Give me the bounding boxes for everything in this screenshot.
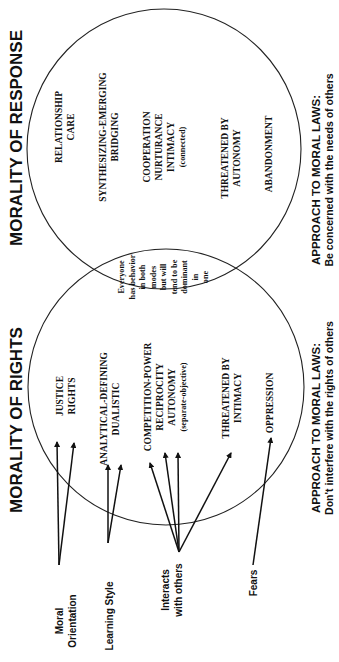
text-line: Moral <box>54 607 65 634</box>
response-approach-text: Be concerned with the needs of others <box>323 73 335 266</box>
response-group-cooperation: COOPERATION NURTURANCE INTIMACY (connect… <box>142 111 187 182</box>
text-line: in both <box>138 264 147 289</box>
text-line: dominant <box>180 260 189 294</box>
text-line: INTIMACY <box>233 373 243 423</box>
text-line: Learning Style <box>104 581 115 650</box>
rights-approach-heading: APPROACH TO MORAL LAWS: <box>310 343 322 513</box>
text-line: RELATIONSHIP <box>54 91 64 163</box>
text-line: with others <box>173 563 184 618</box>
rights-group-analytical: ANALYTICAL-DEFINING DUALISTIC <box>99 352 121 466</box>
label-moral-orientation: Moral Orientation <box>54 594 78 647</box>
text-line: NURTURANCE <box>154 113 164 180</box>
text-line: but will <box>159 263 168 290</box>
label-learning-style: Learning Style <box>104 581 115 650</box>
text-line: CARE <box>66 114 76 141</box>
arrow-fears-oppression <box>253 438 271 565</box>
arrow-moral-justice <box>57 442 59 565</box>
arrow-interacts-competition <box>150 463 179 552</box>
response-group-relationship: RELATIONSHIP CARE <box>54 91 76 163</box>
rights-group-justice: JUSTICE RIGHTS <box>55 376 77 416</box>
text-line: one <box>201 270 210 283</box>
text-line: JUSTICE <box>55 376 65 416</box>
response-approach-heading: APPROACH TO MORAL LAWS: <box>310 95 322 265</box>
text-line: tend to be <box>170 259 179 294</box>
arrow-interacts-threatened <box>179 453 231 552</box>
rights-group-threatened: THREATENED BY INTIMACY <box>221 357 243 439</box>
text-line: ANALYTICAL-DEFINING <box>99 352 109 466</box>
venn-diagram: MORALITY OF RESPONSE MORALITY OF RIGHTS … <box>0 0 339 662</box>
arrow-moral-rights <box>59 443 74 565</box>
response-group-threatened: THREATENED BY AUTONOMY <box>220 117 242 199</box>
text-line: COMPETITION-POWER <box>143 343 153 452</box>
text-line: in <box>191 273 200 280</box>
text-line: INTIMACY <box>166 122 176 172</box>
text-line: RECIPROCITY <box>155 363 165 431</box>
text-line: THREATENED BY <box>220 117 230 199</box>
text-line: RIGHTS <box>67 378 77 415</box>
text-line: BRIDGING <box>110 112 120 162</box>
text-line: THREATENED BY <box>221 357 231 439</box>
text-line: AUTONOMY <box>167 368 177 425</box>
text-line: Everyone <box>117 260 126 294</box>
rights-approach-text: Don't interfere with the rights of other… <box>323 321 335 515</box>
response-group-synthesizing: SYNTHESIZING-EMERGING BRIDGING <box>98 72 120 202</box>
text-line: OPPRESSION <box>265 373 275 434</box>
overlap-text: Everyone has behavior in both modes but … <box>117 254 210 299</box>
arrow-interacts-reciprocity <box>165 453 179 552</box>
text-line: AUTONOMY <box>232 129 242 186</box>
response-circle <box>27 9 301 289</box>
text-line: has behavior <box>128 254 137 299</box>
response-group-abandonment: ABANDONMENT <box>264 115 274 192</box>
text-line: SYNTHESIZING-EMERGING <box>98 72 108 202</box>
text-line: Interacts <box>160 569 171 611</box>
response-title: MORALITY OF RESPONSE <box>7 30 26 246</box>
text-line: (separate-objective) <box>179 362 188 431</box>
text-line: COOPERATION <box>142 111 152 182</box>
text-line: modes <box>149 266 158 288</box>
label-interacts: Interacts with others <box>160 563 184 618</box>
rights-title: MORALITY OF RIGHTS <box>7 327 26 513</box>
text-line: ABANDONMENT <box>264 115 274 192</box>
text-line: Fears <box>248 569 259 596</box>
arrow-learning-dualistic <box>108 465 121 543</box>
text-line: Orientation <box>67 594 78 647</box>
rights-group-oppression: OPPRESSION <box>265 373 275 434</box>
text-line: DUALISTIC <box>111 382 121 435</box>
text-line: (connected) <box>178 126 187 167</box>
label-fears: Fears <box>248 569 259 596</box>
arrow-interacts-autonomy <box>178 453 179 552</box>
rights-group-competition: COMPETITION-POWER RECIPROCITY AUTONOMY (… <box>143 343 188 452</box>
